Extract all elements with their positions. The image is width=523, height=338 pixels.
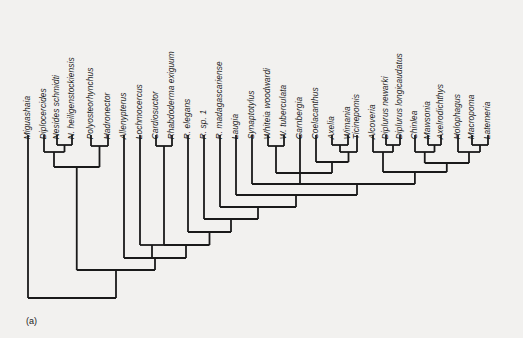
tip-label-whiteia-woodwardi: Whiteia woodwardi	[263, 68, 271, 139]
tip-label-polyosteorhynchus: Polyosteorhynchus	[86, 67, 94, 139]
tip-label-miguashaia: Miguashaia	[23, 96, 31, 139]
tip-label-macropoma: Macropoma	[467, 95, 475, 140]
tip-label-ticinepomis: Ticinepomis	[352, 94, 360, 139]
tip-label-diplurus-longicaudatus: Diplurus longicaudatus	[395, 53, 403, 139]
panel-label: (a)	[26, 316, 37, 326]
tip-label-w-tuberculata: W. tuberculata	[279, 85, 287, 140]
tip-label-mawsonia: Mawsonia	[423, 101, 431, 139]
tip-label-rhabdoderma-exiguum: Rhabdoderma exiguum	[167, 51, 175, 139]
tip-label-axelia: Axelia	[327, 116, 335, 139]
tip-label-r-elegans: R. elegans	[183, 99, 191, 140]
tip-label-holophagus: Holophagus	[453, 94, 461, 139]
tip-label-lochmocercus: Lochmocercus	[135, 84, 143, 139]
tip-label-synaptotylus: Synaptotylus	[247, 91, 255, 140]
tip-label-latemeria: Latemeria	[483, 102, 491, 140]
tip-label-cardiosuctor: Cardiosuctor	[151, 91, 159, 139]
tip-label-nesides-schmidti: Nesides schmidti	[52, 75, 60, 139]
tip-label-diplocercides: Diplocercides	[39, 88, 47, 139]
tip-label-chinlea: Chinlea	[410, 110, 418, 139]
tip-label-r-sp-1: R. sp. 1	[199, 110, 207, 139]
tip-label-alcoveria: Alcoveria	[368, 104, 376, 139]
tip-label-laugia: Laugia	[231, 114, 239, 140]
tip-label-garnbergia: Garnbergia	[295, 97, 303, 140]
cladogram-svg	[0, 0, 523, 338]
tip-label-diplurus-newarki: Diplurus newarki	[381, 76, 389, 139]
tip-label-hadronector: Hadronector	[103, 93, 111, 140]
tip-label-coelacanthus: Coelacanthus	[311, 87, 319, 139]
tip-label-n-heiligenstockiensis: N. heiligenstockiensis	[67, 57, 75, 139]
tip-label-axelrodichthys: Axelrodichthys	[436, 84, 444, 139]
tip-label-r-madagascariense: R. madagascariense	[215, 61, 223, 139]
cladogram-figure: Miguashaia Diplocercides Nesides schmidt…	[0, 0, 523, 338]
tip-label-allenypterus: Allenypterus	[119, 92, 127, 139]
